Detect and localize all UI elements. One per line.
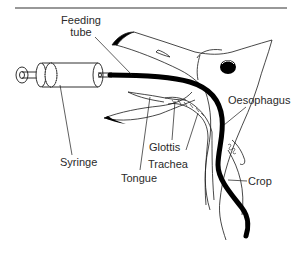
leader-syringe bbox=[60, 85, 72, 155]
leader-trachea bbox=[186, 113, 198, 150]
leader-crop bbox=[228, 180, 247, 181]
label-oesophagus: Oesophagus bbox=[228, 94, 290, 106]
label-trachea: Trachea bbox=[148, 158, 188, 170]
leader-oesophagus bbox=[224, 107, 246, 125]
leader-glottis bbox=[172, 101, 175, 140]
label-glottis: Glottis bbox=[149, 141, 180, 153]
label-tongue: Tongue bbox=[121, 172, 157, 184]
syringe-icon bbox=[16, 63, 112, 87]
bird-eye-icon bbox=[220, 60, 236, 74]
label-feeding-tube-line1: Feeding bbox=[58, 14, 104, 26]
label-feeding-tube: Feeding tube bbox=[58, 14, 104, 38]
label-crop: Crop bbox=[248, 175, 272, 187]
diagram-illustration bbox=[0, 0, 296, 256]
bird-head-outline bbox=[104, 32, 272, 240]
label-syringe: Syringe bbox=[60, 156, 97, 168]
label-feeding-tube-line2: tube bbox=[58, 26, 104, 38]
crop-feeding-diagram: Feeding tube Syringe Tongue Glottis Trac… bbox=[0, 0, 296, 256]
